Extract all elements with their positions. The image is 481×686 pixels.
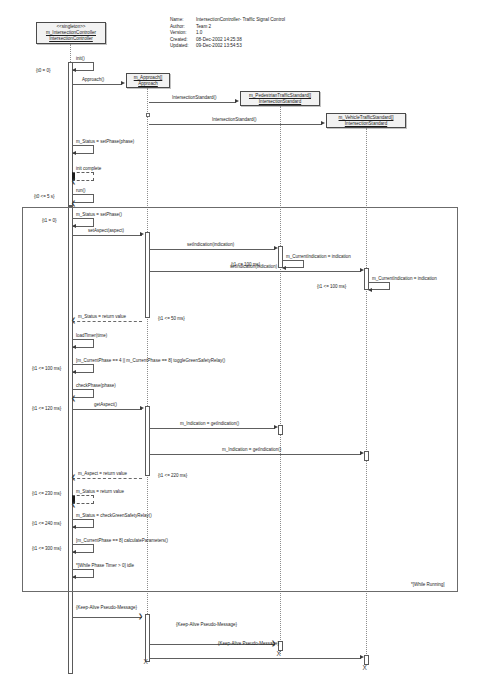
arrow-calculate-params-return — [72, 550, 76, 554]
metadata-value-updated: 09-Dec-2002 13:54:53 — [196, 43, 242, 50]
arrow-set-aspect — [140, 232, 144, 236]
message-line-set-indication-veh — [149, 271, 361, 272]
message-label-get-indication-veh: m_Indication = getIndication() — [222, 447, 281, 453]
arrow-get-indication-ped — [274, 425, 278, 429]
message-line-set-indication-ped — [149, 249, 275, 250]
message-line-pedestrian-create — [149, 102, 236, 103]
arrow-idle-return — [72, 575, 76, 579]
constraint-t1-100-c: {t1 <= 100 ms} — [32, 366, 61, 372]
object-classifier-pedestrian: IntersectionStandard — [241, 99, 319, 105]
constraint-t0-5s: {t0 <= 5 s} — [34, 194, 55, 200]
metadata-row-author: Author: Team 2 — [170, 24, 285, 31]
message-line-get-indication-veh — [149, 454, 361, 455]
message-label-run: run() — [76, 188, 86, 194]
message-line-set-aspect — [72, 235, 142, 236]
connector-tick-approach-1 — [146, 113, 150, 117]
message-label-vehicle-create: IntersectionStandard() — [212, 117, 257, 123]
arrow-get-indication-veh — [360, 451, 364, 455]
sequence-diagram-canvas: Name: IntersectionController- Traffic Si… — [0, 0, 481, 686]
metadata-value-version: 1.0 — [196, 30, 202, 37]
message-label-keep-alive-2: {Keep-Alive Pseudo-Message} — [176, 622, 237, 628]
metadata-row-updated: Updated: 09-Dec-2002 13:54:53 — [170, 43, 285, 50]
arrow-pedestrian-create — [235, 99, 239, 103]
metadata-value-name: IntersectionController- Traffic Signal C… — [196, 17, 285, 24]
arrow-check-relay-return — [72, 525, 76, 529]
metadata-value-author: Team 2 — [196, 24, 211, 31]
arrow-set-indication-ped — [274, 246, 278, 250]
message-label-set-phase-init: m_Status = setPhase(phase) — [76, 139, 134, 145]
loop-frame-label: *[While Running] — [411, 582, 445, 588]
metadata-label-updated: Updated: — [170, 43, 196, 50]
message-label-set-aspect: setAspect(aspect) — [88, 228, 124, 234]
arrow-keep-alive-3 — [360, 655, 364, 659]
message-line-vehicle-create — [149, 124, 322, 125]
message-label-idle: *[While Phase Timer > 0] idle — [76, 563, 134, 569]
arrow-run-return: ❮ — [71, 200, 76, 206]
message-label-check-phase: checkPhase(phase) — [76, 383, 116, 389]
message-label-toggle-relay: [m_CurrentPhase == 4 || m_CurrentPhase =… — [76, 358, 225, 364]
metadata-row-version: Version: 1.0 — [170, 30, 285, 37]
arrow-set-phase-init-return — [72, 151, 76, 155]
metadata-value-created: 08-Dec-2002 14:25:38 — [196, 37, 242, 44]
constraint-t1-230: {t1 <= 230 ms} — [32, 491, 61, 497]
constraint-t1-220: {t1 <= 220 ms} — [158, 473, 187, 479]
arrow-keep-alive-1: ❯ — [138, 613, 143, 619]
constraint-t1-50: {t1 <= 50 ms} — [158, 316, 185, 322]
message-label-set-indication-veh: setIndication(indication) — [230, 264, 277, 270]
constraint-t1-100-b: {t1 <= 100 ms} — [317, 284, 346, 290]
message-label-status-return-1: m_Status = return value — [78, 314, 126, 320]
metadata-row-created: Created: 08-Dec-2002 14:25:38 — [170, 37, 285, 44]
constraint-t1-300: {t1 <= 300 ms} — [32, 546, 61, 552]
message-label-status-return-2: m_Status = return value — [76, 489, 124, 495]
message-line-get-aspect — [72, 409, 142, 410]
termination-mark-pedestrian: X — [277, 651, 281, 658]
message-label-current-indication-veh: m_CurrentIndication = indication — [372, 276, 437, 282]
message-label-set-indication-ped: setIndication(indication) — [187, 242, 234, 248]
message-label-current-indication-ped: m_CurrentIndication = indication — [286, 254, 351, 260]
activation-approach-keepalive — [145, 614, 150, 662]
arrow-check-phase-return: ❮ — [71, 395, 76, 401]
message-label-get-indication-ped: m_Indication = getIndication() — [180, 421, 239, 427]
message-label-init-complete: init complete — [76, 166, 101, 172]
message-label-calculate-params: [m_CurrentPhase == 8] calculateParameter… — [76, 538, 168, 544]
message-label-check-relay: m_Status = checkGreenSafetyRelay() — [76, 513, 152, 519]
message-line-status-return-1 — [72, 321, 142, 322]
message-label-aspect-return: m_Aspect = return value — [78, 471, 127, 477]
message-line-get-indication-ped — [149, 428, 275, 429]
arrow-approach-create — [121, 81, 125, 85]
arrow-vehicle-create — [321, 121, 325, 125]
arrow-init-complete-return: ❮ — [71, 178, 76, 184]
message-line-aspect-return — [72, 478, 142, 479]
metadata-row-name: Name: IntersectionController- Traffic Si… — [170, 17, 285, 24]
metadata-label-name: Name: — [170, 17, 196, 24]
arrow-aspect-return: ❮ — [71, 474, 76, 480]
arrow-get-aspect — [140, 406, 144, 410]
arrow-set-phase-loop-return — [72, 224, 76, 228]
object-box-intersection-controller[interactable]: <<singleton>> m_IntersectionController I… — [36, 22, 106, 44]
message-label-keep-alive-3: {Keep-Alive Pseudo-Message} — [218, 641, 279, 647]
message-line-keep-alive-3 — [149, 658, 361, 659]
message-label-load-timer: loadTimer(time) — [76, 333, 107, 339]
message-label-get-aspect: getAspect() — [94, 402, 117, 408]
constraint-t1-120: {t1 <= 120 ms} — [32, 406, 61, 412]
arrow-toggle-relay-return — [72, 370, 76, 374]
message-label-pedestrian-create: IntersectionStandard() — [172, 95, 217, 101]
object-box-pedestrian-standard[interactable]: m_PedestrianTrafficStandard[] Intersecti… — [240, 91, 320, 106]
constraint-t0-zero: {t0 = 0} — [36, 68, 50, 74]
arrow-init-return — [72, 68, 76, 72]
termination-mark-approach: X — [144, 659, 148, 666]
message-label-init: init() — [76, 56, 85, 62]
arrow-status-return-1: ❮ — [71, 317, 76, 323]
object-box-vehicle-standard[interactable]: m_VehicleTrafficStandard[] IntersectionS… — [326, 113, 406, 128]
object-box-approach[interactable]: m_Approach[] Approach — [126, 73, 170, 88]
constraint-t1-zero: {t1 = 0} — [42, 218, 56, 224]
arrow-load-timer-return — [72, 345, 76, 349]
constraint-t1-240: {t1 <= 240 ms} — [32, 521, 61, 527]
arrow-status-return-2: ❮ — [71, 501, 76, 507]
metadata-label-created: Created: — [170, 37, 196, 44]
arrow-current-indication-ped — [282, 266, 286, 270]
arrow-current-indication-veh — [368, 288, 372, 292]
object-classifier-approach: Approach — [127, 81, 169, 87]
object-classifier-vehicle: IntersectionStandard — [327, 121, 405, 127]
metadata-label-version: Version: — [170, 30, 196, 37]
